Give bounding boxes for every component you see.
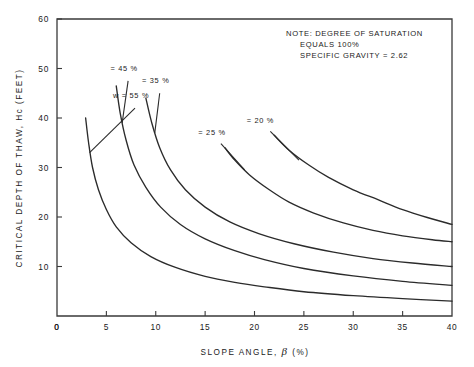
note-line-3: SPECIFIC GRAVITY = 2.62	[300, 51, 408, 60]
leader-20	[270, 131, 299, 160]
chart-figure: 0510152025303540 1020304050600 w = 55 %=…	[0, 0, 474, 367]
leader-45	[122, 81, 128, 123]
y-tick-label: 60	[38, 14, 49, 24]
note-line-2: EQUALS 100%	[300, 40, 360, 49]
curve-label-20: = 20 %	[247, 116, 274, 125]
x-tick-label: 10	[150, 322, 161, 332]
curve-25-percent	[225, 148, 452, 242]
y-tick-label: 30	[38, 163, 49, 173]
curve-20-percent	[274, 135, 452, 224]
curve-45-percent	[116, 86, 452, 285]
chart-svg: 0510152025303540 1020304050600 w = 55 %=…	[0, 0, 474, 367]
x-tick-label: 35	[397, 322, 408, 332]
beta-symbol: β	[280, 345, 288, 357]
x-axis-ticks: 0510152025303540	[54, 311, 457, 332]
y-tick-label: 10	[38, 262, 49, 272]
leader-25	[221, 144, 245, 170]
y-tick-label: 40	[38, 113, 49, 123]
x-tick-label: 25	[299, 322, 310, 332]
note-annotation: NOTE: DEGREE OF SATURATIONEQUALS 100%SPE…	[286, 29, 423, 60]
x-tick-label: 30	[348, 322, 359, 332]
x-tick-label: 5	[104, 322, 109, 332]
curve-label-25: = 25 %	[198, 128, 225, 137]
curve-label-55: w = 55 %	[112, 91, 149, 100]
y-axis-title: CRITICAL DEPTH OF THAW, Hc (FEET)	[15, 69, 24, 268]
leader-35	[155, 93, 160, 133]
x-tick-label: 40	[447, 322, 458, 332]
curve-55-percent	[86, 118, 452, 301]
origin-label: 0	[54, 322, 59, 332]
x-title-pre: SLOPE ANGLE,	[201, 348, 282, 357]
curve-label-35: = 35 %	[142, 76, 169, 85]
x-axis-title: SLOPE ANGLE, β (%)	[201, 345, 310, 357]
x-tick-label: 15	[200, 322, 211, 332]
curve-35-percent	[146, 98, 452, 266]
y-tick-label: 20	[38, 212, 49, 222]
x-tick-label: 20	[249, 322, 260, 332]
x-title-post: (%)	[288, 348, 309, 357]
note-line-1: NOTE: DEGREE OF SATURATION	[286, 29, 423, 38]
y-axis-ticks: 1020304050600	[38, 14, 62, 332]
curve-label-45: = 45 %	[110, 64, 137, 73]
y-tick-label: 50	[38, 64, 49, 74]
curve-label-group: w = 55 %= 45 %= 35 %= 25 %= 20 %	[110, 64, 274, 137]
